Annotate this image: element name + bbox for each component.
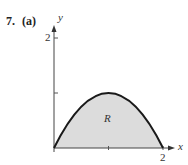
x-axis-label: x xyxy=(178,141,183,152)
y-axis-arrow-icon xyxy=(52,25,57,32)
y-tick-label-2: 2 xyxy=(45,32,51,43)
region-label: R xyxy=(104,113,111,124)
y-axis-label: y xyxy=(58,12,63,23)
graph xyxy=(0,0,188,165)
x-axis-arrow-icon xyxy=(168,146,175,151)
x-tick-label-2: 2 xyxy=(160,152,166,163)
